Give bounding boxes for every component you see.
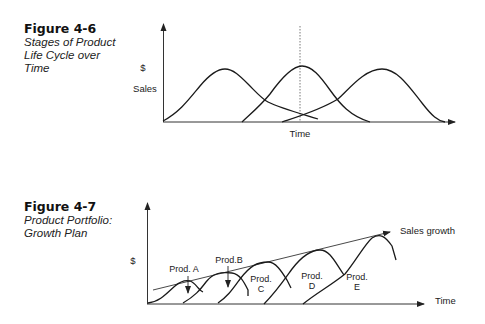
product-label-b: Prod.B bbox=[215, 255, 243, 265]
life-cycle-curve-3 bbox=[282, 69, 445, 122]
sales-growth-label: Sales growth bbox=[400, 225, 455, 236]
y-axis-label-dollar: $ bbox=[140, 62, 146, 73]
product-curve-a bbox=[148, 281, 203, 303]
figure-4-7-chart: $ Time Sales growth Prod. A Prod.B Prod.… bbox=[130, 203, 455, 306]
product-curve-b bbox=[183, 273, 248, 303]
product-label-c-line1: Prod. bbox=[250, 274, 272, 284]
product-label-e-line1: Prod. bbox=[346, 272, 368, 282]
product-label-c-line2: C bbox=[258, 284, 265, 294]
x-axis-label: Time bbox=[435, 295, 456, 306]
y-axis-label-dollar: $ bbox=[130, 255, 136, 266]
life-cycle-curve-1 bbox=[163, 69, 318, 121]
diagrams-canvas: $ Sales Time $ Time Sales growth Prod. A… bbox=[0, 0, 485, 324]
product-label-d-line2: D bbox=[309, 281, 316, 291]
product-label-a: Prod. A bbox=[169, 264, 199, 274]
y-axis-label-sales: Sales bbox=[133, 83, 157, 94]
x-axis-label: Time bbox=[290, 128, 311, 139]
product-label-d-line1: Prod. bbox=[301, 271, 323, 281]
product-label-e-line2: E bbox=[354, 282, 360, 292]
figure-4-6-chart: $ Sales Time bbox=[133, 24, 455, 139]
product-curve-e bbox=[303, 236, 396, 304]
